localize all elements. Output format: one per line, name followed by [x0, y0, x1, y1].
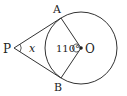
tangent-pa: [14, 18, 61, 48]
angle-arc-x: [20, 44, 21, 52]
label-a: A: [52, 3, 62, 16]
label-b: B: [54, 81, 62, 94]
tangent-pb: [14, 48, 61, 78]
label-x: x: [29, 42, 36, 55]
label-angle-110: 110°: [56, 43, 80, 54]
label-p: P: [3, 42, 11, 56]
geometry-figure: P x A B O 110°: [0, 0, 127, 96]
label-o: O: [85, 42, 95, 56]
